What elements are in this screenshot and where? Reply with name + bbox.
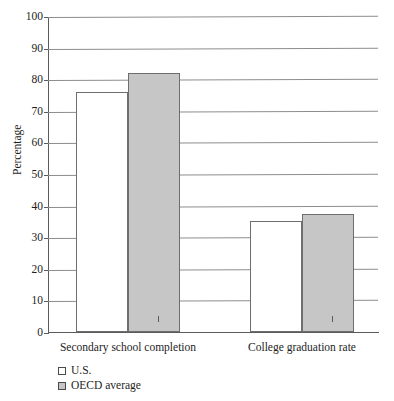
y-axis-tickmark — [44, 301, 48, 302]
y-axis-tick-label: 40 — [32, 201, 44, 213]
gridline — [48, 16, 378, 18]
legend: U.S. OECD average — [58, 363, 141, 393]
y-axis-tickmark — [44, 175, 48, 176]
y-axis-tickmark — [44, 17, 48, 18]
y-axis-tickmark — [44, 80, 48, 81]
bar-chart-figure: Percentage 0102030405060708090100 Second… — [0, 0, 394, 401]
y-axis-tickmark — [44, 49, 48, 50]
x-axis-category-label: College graduation rate — [248, 341, 356, 353]
y-axis-tick-label: 80 — [32, 74, 44, 86]
x-axis-tickmark — [48, 316, 49, 322]
legend-label-us: U.S. — [71, 365, 91, 377]
x-axis-line — [48, 332, 379, 333]
y-axis-tick-label: 20 — [32, 264, 44, 276]
y-axis-tickmark — [44, 207, 48, 208]
plot-area: 0102030405060708090100 — [48, 17, 378, 333]
gridline — [48, 79, 378, 81]
legend-label-oecd: OECD average — [71, 380, 141, 392]
y-axis-tickmark — [44, 333, 48, 334]
y-axis-tick-label: 100 — [26, 11, 43, 23]
legend-swatch-us-icon — [58, 367, 66, 375]
bar-us — [76, 92, 128, 332]
y-axis-tick-label: 90 — [32, 43, 44, 55]
y-axis-tickmark — [44, 143, 48, 144]
y-axis-tick-label: 10 — [32, 296, 44, 308]
y-axis-tick-label: 30 — [32, 232, 44, 244]
legend-item-oecd: OECD average — [58, 378, 141, 393]
y-axis-title: Percentage — [11, 125, 23, 175]
legend-item-us: U.S. — [58, 363, 141, 378]
bar-oecd — [302, 214, 354, 333]
x-axis-category-label: Secondary school completion — [60, 341, 196, 353]
y-axis-tick-label: 70 — [32, 106, 44, 118]
y-axis-tickmark — [44, 112, 48, 113]
y-axis-tickmark — [44, 270, 48, 271]
legend-swatch-oecd-icon — [58, 382, 66, 390]
bar-us — [250, 221, 302, 332]
y-axis-tick-label: 60 — [32, 138, 44, 150]
bar-oecd — [128, 73, 180, 332]
gridline — [48, 47, 378, 49]
x-axis-tickmark — [332, 316, 333, 322]
y-axis-tick-label: 50 — [32, 169, 44, 181]
y-axis-tick-label: 0 — [37, 327, 43, 339]
x-axis-tickmark — [158, 316, 159, 322]
y-axis-tickmark — [44, 238, 48, 239]
top-caption-fragment — [6, 0, 336, 5]
